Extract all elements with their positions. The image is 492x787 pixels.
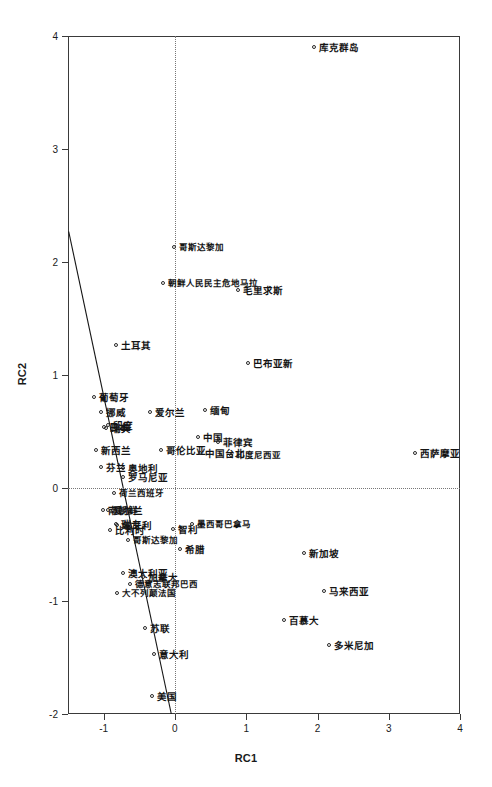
data-point-label: 挪威 xyxy=(106,408,126,418)
data-point[interactable] xyxy=(112,491,116,495)
data-point-label: 大不列颠法国 xyxy=(122,589,176,598)
data-point[interactable] xyxy=(161,281,165,285)
data-point-label: 百慕大 xyxy=(289,616,319,626)
y-tick-label: 1 xyxy=(42,370,58,381)
data-point[interactable] xyxy=(413,451,417,455)
x-tick xyxy=(104,714,105,720)
y-tick xyxy=(62,262,68,263)
data-point-label: 马来西亚 xyxy=(329,587,369,597)
data-point-label: 巴布亚新 xyxy=(253,359,293,369)
data-point[interactable] xyxy=(322,589,326,593)
y-tick-label: 3 xyxy=(42,144,58,155)
data-point[interactable] xyxy=(121,475,125,479)
data-point[interactable] xyxy=(106,508,110,512)
x-tick-label: 3 xyxy=(374,723,404,734)
data-point[interactable] xyxy=(114,343,118,347)
data-point-label: 意大利 xyxy=(159,650,189,660)
data-point[interactable] xyxy=(216,440,220,444)
data-point-label: 菲律宾 xyxy=(223,438,253,448)
data-point[interactable] xyxy=(128,582,132,586)
data-point-label: 新加坡 xyxy=(309,549,339,559)
data-point[interactable] xyxy=(178,547,182,551)
x-axis-label: RC1 xyxy=(0,752,492,764)
data-point-label: 罗马尼亚 xyxy=(128,473,168,483)
data-point[interactable] xyxy=(121,571,125,575)
data-point-label: 哥斯达黎加 xyxy=(133,536,178,545)
y-tick xyxy=(62,375,68,376)
x-tick xyxy=(318,714,319,720)
data-point-label: 土耳其 xyxy=(121,341,151,351)
data-point-label: 希腊 xyxy=(185,545,205,555)
data-point-label: 美国 xyxy=(157,692,177,702)
data-point[interactable] xyxy=(108,528,112,532)
data-point[interactable] xyxy=(121,466,125,470)
y-tick-label: -2 xyxy=(42,709,58,720)
data-point-label: 荷兰西班牙 xyxy=(119,489,164,498)
y-tick-label: 0 xyxy=(42,483,58,494)
x-tick-label: 1 xyxy=(231,723,261,734)
data-point-label: 哥斯达黎加 xyxy=(179,243,224,252)
data-point-label: 印度尼西亚 xyxy=(236,451,281,460)
y-tick-label: -1 xyxy=(42,596,58,607)
vertical-zero xyxy=(175,36,176,714)
y-tick xyxy=(62,601,68,602)
data-point[interactable] xyxy=(150,694,154,698)
data-point[interactable] xyxy=(92,395,96,399)
data-point[interactable] xyxy=(246,361,250,365)
x-tick-label: 0 xyxy=(160,723,190,734)
data-point[interactable] xyxy=(171,527,175,531)
data-point-label: 墨西哥巴拿马 xyxy=(197,520,251,529)
y-axis-label: RC2 xyxy=(16,344,28,404)
data-point-label: 中国 xyxy=(203,433,223,443)
data-point-label: 新西兰 xyxy=(101,446,131,456)
y-tick-label: 2 xyxy=(42,257,58,268)
data-point-label: 智利 xyxy=(178,525,198,535)
data-point-label: 爱尔兰 xyxy=(113,506,143,516)
data-point[interactable] xyxy=(94,448,98,452)
data-point-label: 库克群岛 xyxy=(319,43,359,53)
x-tick-label: -1 xyxy=(89,723,119,734)
data-point[interactable] xyxy=(101,508,105,512)
data-point-label: 瑞典 xyxy=(111,424,131,434)
y-tick xyxy=(62,36,68,37)
x-tick xyxy=(389,714,390,720)
x-tick-label: 4 xyxy=(445,723,475,734)
data-point-label: 缅甸 xyxy=(210,406,230,416)
y-tick xyxy=(62,714,68,715)
data-point-label: 西萨摩亚 xyxy=(420,449,460,459)
x-tick-label: 2 xyxy=(303,723,333,734)
data-point-label: 葡萄牙 xyxy=(99,393,129,403)
data-point-label: 爱尔兰 xyxy=(155,408,185,418)
x-tick xyxy=(246,714,247,720)
loading-axis-line xyxy=(0,0,492,787)
data-point[interactable] xyxy=(302,551,306,555)
data-point-label: 苏联 xyxy=(150,624,170,634)
data-point[interactable] xyxy=(198,451,202,455)
y-tick-label: 4 xyxy=(42,31,58,42)
data-point[interactable] xyxy=(159,448,163,452)
scatter-plot: RC1 RC2 -101234-2-101234 库克群岛哥斯达黎加朝鲜人民民主… xyxy=(0,0,492,787)
data-point[interactable] xyxy=(99,465,103,469)
data-point-label: 毛里求斯 xyxy=(243,286,283,296)
data-point-label: 多米尼加 xyxy=(334,641,374,651)
y-tick xyxy=(62,149,68,150)
x-tick xyxy=(175,714,176,720)
x-tick xyxy=(460,714,461,720)
